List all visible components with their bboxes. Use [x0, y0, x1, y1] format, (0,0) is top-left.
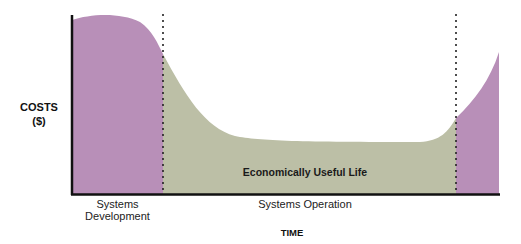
phase-label-development: Systems Development [75, 198, 160, 222]
phase-label-line: Development [75, 210, 160, 222]
economically-useful-life-label: Economically Useful Life [230, 166, 380, 178]
phase-label-operation: Systems Operation [240, 198, 370, 210]
development-area [72, 15, 163, 194]
y-axis-label-line-2: ($) [18, 114, 60, 128]
y-axis-label-line-1: COSTS [18, 100, 60, 114]
x-axis-label: TIME [262, 227, 322, 238]
replacement-area [456, 52, 499, 194]
y-axis-label: COSTS ($) [18, 100, 60, 128]
phase-label-line: Systems Operation [240, 198, 370, 210]
phase-label-line: Systems [75, 198, 160, 210]
